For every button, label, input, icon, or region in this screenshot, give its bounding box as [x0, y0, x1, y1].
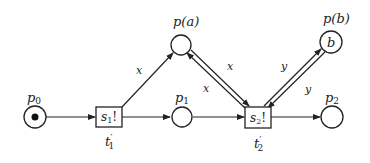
- arc-pa-t2: [191, 50, 249, 106]
- arc-label-t2-pb: y: [280, 60, 288, 73]
- place-label-p2: p2: [325, 90, 339, 106]
- arc-pb-t2: [268, 52, 325, 108]
- place-p2: p2: [321, 90, 343, 128]
- place-label-pb: p(b): [323, 11, 350, 26]
- place-inner-b: b: [327, 35, 335, 50]
- transition-t1: s1! t′1: [96, 107, 122, 151]
- place-label-p0: p0: [27, 90, 41, 106]
- petri-net-diagram: x x x y y p0 s1! t′1 p(a) p1 s2! t′2 b p…: [0, 0, 370, 163]
- place-p0: p0: [24, 90, 46, 128]
- place-label-p1: p1: [175, 90, 189, 106]
- arc-label-pb-t2: y: [304, 83, 312, 96]
- place-pb: b p(b): [320, 11, 350, 53]
- arc-label-t2-pa: x: [203, 82, 210, 95]
- transition-label-t2: t′2: [254, 134, 263, 153]
- place-label-pa: p(a): [173, 14, 199, 29]
- place-p1: p1: [172, 90, 192, 127]
- arc-t1-pa: [122, 53, 173, 107]
- transition-label-t1: t′1: [105, 132, 114, 151]
- arc-label-pa-t2: x: [227, 60, 234, 73]
- token-icon: [32, 114, 39, 121]
- transition-t2: s2! t′2: [245, 107, 271, 153]
- place-pa: p(a): [171, 14, 199, 55]
- arc-t2-pb: [264, 49, 321, 106]
- arc-t2-pa: [187, 53, 245, 108]
- arc-label-t1-pa: x: [136, 64, 143, 77]
